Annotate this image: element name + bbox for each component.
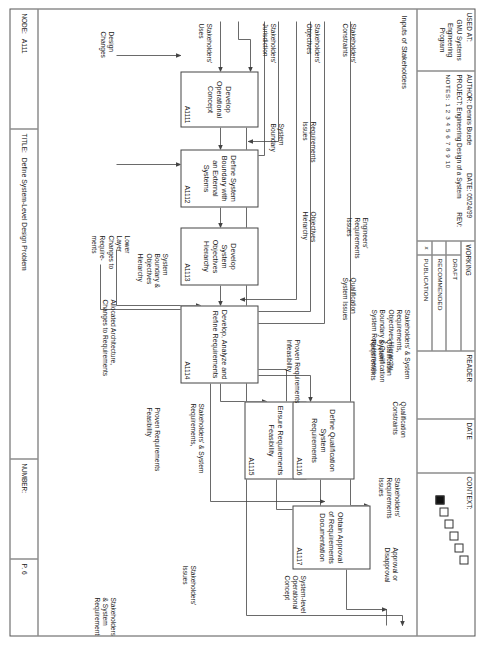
label-design-changes: Design Changes [98,31,114,57]
footer-node-cell: NODE: A111 [10,9,37,129]
used-at-value: GMU Systems Engineering Program [436,12,462,67]
label-engineers-requirements-issues: Engineers' Requirements Issues [343,217,368,258]
author-line: AUTHOR: Dennis Buede DATE: 05/24/99 [465,74,472,237]
label-stakeholders-jurisdiction: Stakeholders' Jurisdiction [260,23,276,63]
project-value: Engineering Design of a System [455,107,462,198]
label-qualification-constraints: Qualification Constraints [390,401,406,437]
context-node-sibling-1 [439,507,448,516]
date-value: 05/24/99 [465,193,472,218]
context-node-sibling-4 [454,543,463,552]
activity-box-a1112[interactable]: Define System Boundary with an External … [180,149,258,207]
reader-label: READER [465,354,472,415]
label-stakeholders-objectives: Stakeholders' Objectives [304,23,320,63]
activity-code: A1113 [183,263,190,281]
label-stakeholders-constraints: Stakeholders' Constraints [340,23,356,63]
rotated-page: USED AT: GMU Systems Engineering Program… [0,0,481,647]
header-used-at-cell: USED AT: GMU Systems Engineering Program [417,9,474,71]
node-label: NODE: [20,13,27,33]
activity-title: Obtain Approval of Requirements Document… [318,506,345,568]
activity-code: A1112 [183,185,190,203]
activity-code: A1111 [183,105,190,123]
header-date-cell: DATE [417,419,474,473]
label-lower-layer-changes: Lower Layer Changes to Require- ments [89,235,130,269]
notes-value: 1 2 3 4 5 6 7 8 9 10 [444,103,451,168]
activity-code: A1116 [295,457,302,475]
screenshot-canvas: USED AT: GMU Systems Engineering Program… [0,0,481,647]
context-node-current [435,495,444,504]
notes-label: NOTES: [444,74,451,101]
idef0-header: USED AT: GMU Systems Engineering Program… [416,9,474,635]
date-label: DATE: [465,172,472,190]
status-row[interactable]: x PUBLICATION [417,241,431,350]
context-node-sibling-2 [444,519,453,528]
activity-box-a1117[interactable]: Obtain Approval of Requirements Document… [292,505,370,569]
activity-title: Develop Operational Concept [206,72,233,126]
label-stakeholders-uses: Stakeholders' Uses [196,23,212,63]
context-label: CONTEXT: [465,476,472,632]
header-status-cell: WORKING DRAFT RECOMMENDED x PUBLICATION [417,241,474,351]
label-stakeholders-issues: Stakeholders' Issues [180,565,196,605]
working-label: WORKING [460,241,474,350]
label-stakeholders-system-req-obj-bound: Stakeholders' & System Requirements, Obj… [369,309,410,382]
activity-box-a1114[interactable]: Develop, Analyze and Refine Requirements… [180,305,258,383]
activity-box-a1113[interactable]: Develop System Objectives Hierarchy A111… [180,227,258,285]
idef0-footer: NODE: A111 TITLE: Define System-Level De… [10,9,38,635]
label-system-level-operational-concept: System-level Operational Concept [281,575,306,613]
label-approval-or-disapproval: Approval or Disapproval [382,547,398,582]
label-objectives-hierarchy: Objectives Hierarchy [300,211,316,242]
activity-box-a1111[interactable]: Develop Operational Concept A1111 [180,71,258,127]
label-system-boundary: System Boundary [268,123,284,151]
activity-code: A1115 [247,457,254,475]
activity-title: Ensure Requirements Feasibility [266,402,284,478]
page-value: P. 6 [20,563,27,574]
label-proven-requirements-infeasibility: Proven Requirements Infeasibility [284,339,300,403]
number-label: NUMBER: [20,463,27,492]
label-stakeholders-system-requirements-out: Stakeholders' & System Requirements [91,597,116,635]
notes-line: NOTES: 1 2 3 4 5 6 7 8 9 10 [444,74,451,237]
activity-code: A1114 [183,361,190,379]
header-context-cell: CONTEXT: [417,473,474,635]
label-stakeholders-requirements-issues: Stakeholders' Requirements Issues [375,477,400,518]
label-system-boundary-objectives-hierarchy: System Boundary & Objectives Hierarchy [135,253,168,287]
date-column-label: DATE [465,422,472,469]
activity-title: Define System Boundary with an External … [201,150,237,206]
footer-title-cell: TITLE: Define System-Level Design Proble… [10,129,37,459]
header-author-cell: AUTHOR: Dennis Buede DATE: 05/24/99 PROJ… [417,71,474,241]
status-label: PUBLICATION [417,255,431,301]
header-reader-cell: READER [417,351,474,419]
project-line: PROJECT: Engineering Design of a System … [455,74,462,237]
label-allocated-architecture: Allocated Architecture, Changes to Requi… [100,299,116,376]
status-label: RECOMMENDED [432,255,446,310]
used-at-label: USED AT: [465,12,472,67]
footer-page-cell: P. 6 [10,559,37,635]
status-row[interactable]: DRAFT [445,241,460,350]
status-mark [432,241,446,255]
activity-title: Develop, Analyze and Refine Requirements [210,306,228,382]
context-node-sibling-5 [459,555,468,564]
label-proven-requirements-feasibility: Proven Requirements Feasibility [144,407,160,471]
status-row[interactable]: RECOMMENDED [431,241,446,350]
activity-code: A1117 [295,547,302,565]
label-requirements-issues: Requirements Issues [300,121,316,162]
activity-title: Define Qualification System Requirements [310,402,337,478]
title-value: Define System-Level Design Problem [20,157,27,270]
node-value: A111 [20,38,27,53]
context-node-sibling-3 [449,531,458,540]
status-mark [446,241,460,255]
activity-title: Develop System Objectives Hierarchy [201,228,237,284]
label-stakeholders-system-requirements-in: Stakeholders' & System Requirements, [188,403,204,473]
label-caption-inputs-of-stakeholders: Inputs of Stakeholders [399,15,408,89]
project-label: PROJECT: [455,74,462,105]
rev-label: REV: [455,212,462,227]
activity-box-a1116[interactable]: Define Qualification System Requirements… [292,401,354,479]
title-label: TITLE: [20,133,27,152]
author-value: Dennis Buede [465,105,472,145]
status-label: DRAFT [446,255,460,280]
idef0-canvas: Develop Operational Concept A1111 Define… [38,9,416,635]
status-mark: x [417,241,431,255]
label-qualification-system-issues: Qualification System Issues [340,277,356,320]
footer-number-cell: NUMBER: [10,459,37,559]
idef0-diagram-sheet: USED AT: GMU Systems Engineering Program… [9,8,475,636]
author-label: AUTHOR: [465,74,472,103]
